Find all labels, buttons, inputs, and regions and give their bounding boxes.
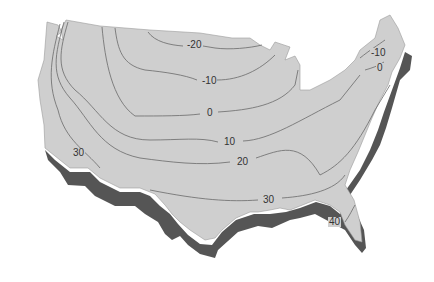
contour-label-20: 20: [236, 157, 249, 167]
contour-label-minus10: -10: [201, 76, 217, 86]
us-isotherm-map: [0, 0, 434, 282]
contour-label-40: 40: [328, 217, 341, 227]
contour-label-0: 0: [206, 108, 214, 118]
contour-label-10: 10: [223, 137, 236, 147]
contour-label-minus10-northeast: -10: [370, 48, 386, 58]
us-land: [38, 15, 405, 242]
contour-label-30-south: 30: [262, 195, 275, 205]
contour-label-minus20: -20: [186, 40, 202, 50]
contour-label-0-northeast: 0: [376, 63, 384, 73]
contour-label-30-west: 30: [72, 148, 85, 158]
